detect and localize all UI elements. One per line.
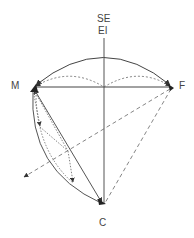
- dashed-f-to-lower-left: [24, 89, 170, 177]
- label-se: SE: [97, 14, 110, 24]
- node-c-marker: [98, 199, 106, 205]
- m-c-line: [34, 89, 102, 203]
- arc-m-f-solid: [36, 58, 170, 86]
- arc-m-c-solid: [33, 90, 101, 203]
- label-ei: EI: [98, 26, 107, 36]
- dotted-curve-m-c: [36, 92, 73, 183]
- vector-diagram: [0, 0, 194, 238]
- dotted-cross-to-arrow: [68, 151, 73, 182]
- label-f: F: [179, 81, 185, 91]
- label-c: C: [99, 218, 106, 228]
- dashed-f-to-c: [105, 89, 171, 203]
- label-m: M: [11, 81, 19, 91]
